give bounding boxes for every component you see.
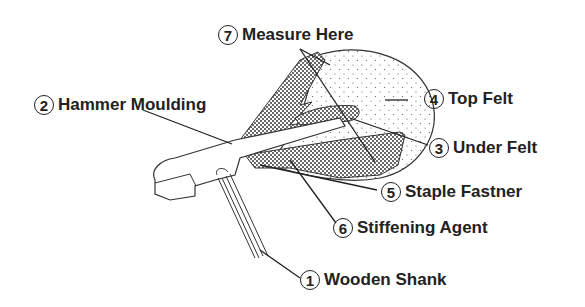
label-under-felt: 3 Under Felt: [429, 138, 537, 158]
label-number: 1: [300, 270, 320, 290]
label-number: 7: [218, 25, 238, 45]
label-number: 4: [424, 89, 444, 109]
label-number: 2: [34, 95, 54, 115]
label-text: Top Felt: [448, 89, 513, 109]
label-measure-here: 7 Measure Here: [218, 25, 354, 45]
label-text: Staple Fastner: [405, 182, 522, 202]
wooden-shank-shape: [216, 168, 268, 258]
label-text: Measure Here: [242, 25, 354, 45]
label-text: Wooden Shank: [324, 270, 446, 290]
label-text: Under Felt: [453, 138, 537, 158]
label-stiffening-agent: 6 Stiffening Agent: [333, 218, 488, 238]
label-text: Hammer Moulding: [58, 95, 206, 115]
label-staple-fastner: 5 Staple Fastner: [381, 182, 522, 202]
label-hammer-moulding: 2 Hammer Moulding: [34, 95, 206, 115]
label-top-felt: 4 Top Felt: [424, 89, 513, 109]
label-wooden-shank: 1 Wooden Shank: [300, 270, 446, 290]
label-number: 5: [381, 182, 401, 202]
label-text: Stiffening Agent: [357, 218, 488, 238]
label-number: 3: [429, 138, 449, 158]
label-number: 6: [333, 218, 353, 238]
